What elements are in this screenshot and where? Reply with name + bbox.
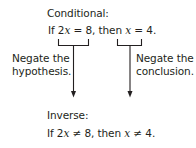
inverse-label: Inverse: bbox=[47, 109, 88, 122]
conclusion-variable: x bbox=[124, 127, 130, 139]
note-line-2: conclusion. bbox=[136, 65, 194, 78]
inverse-statement: If 2x ≠ 8, then x ≠ 4. bbox=[47, 127, 155, 140]
note-line-1: Negate the bbox=[136, 52, 194, 65]
conclusion-relation: ≠ 4. bbox=[133, 127, 155, 139]
hypothesis-relation: ≠ 8, bbox=[73, 127, 95, 139]
hypothesis-arrowhead-icon bbox=[71, 91, 76, 98]
hypothesis-bracket bbox=[59, 39, 89, 46]
conclusion-bracket bbox=[118, 39, 142, 46]
then-word: then bbox=[98, 127, 122, 139]
negate-conclusion-note: Negate the conclusion. bbox=[136, 52, 194, 78]
if-word: If bbox=[47, 127, 54, 139]
negate-hypothesis-note: Negate the hypothesis. bbox=[12, 52, 71, 78]
note-line-1: Negate the bbox=[12, 52, 71, 65]
note-line-2: hypothesis. bbox=[12, 65, 71, 78]
hypothesis-variable: x bbox=[63, 127, 69, 139]
conclusion-arrowhead-icon bbox=[128, 91, 133, 98]
